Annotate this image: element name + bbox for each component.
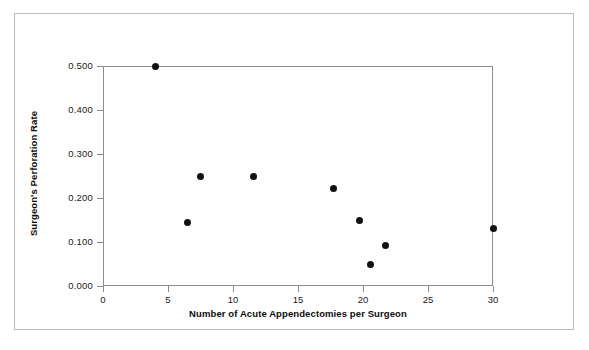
data-point <box>250 173 257 180</box>
data-point <box>197 173 204 180</box>
y-axis-tick-label-text: 0.100 <box>51 236 93 247</box>
plot-area <box>103 66 493 286</box>
x-axis-tick-label: 15 <box>283 294 313 305</box>
x-axis-tick-label: 5 <box>153 294 183 305</box>
y-axis-tick-label-text: 0.500 <box>51 60 93 71</box>
y-axis-tick-label: 0.100 <box>48 236 93 248</box>
y-axis-tick <box>97 110 103 111</box>
x-axis-tick <box>493 286 494 292</box>
y-axis-tick-label: 0.200 <box>48 192 93 204</box>
x-axis-tick-label: 25 <box>413 294 443 305</box>
x-axis-tick-label: 10 <box>218 294 248 305</box>
scatter-chart: 0.0000.1000.2000.3000.4000.500 051015202… <box>0 0 589 350</box>
x-axis-tick-label: 0 <box>88 294 118 305</box>
y-axis-tick-label-text: 0.200 <box>51 192 93 203</box>
data-point <box>490 225 497 232</box>
x-axis-title: Number of Acute Appendectomies per Surge… <box>103 308 493 319</box>
scanned-page: 0.0000.1000.2000.3000.4000.500 051015202… <box>0 0 589 350</box>
x-axis-tick <box>428 286 429 292</box>
y-axis-tick <box>97 242 103 243</box>
x-axis-tick <box>298 286 299 292</box>
y-axis-tick-label: 0.500 <box>48 60 93 72</box>
y-axis-tick-label: 0.000 <box>48 280 93 292</box>
y-axis-tick <box>97 66 103 67</box>
data-point <box>152 63 159 70</box>
y-axis-tick-label: 0.400 <box>48 104 93 116</box>
data-point <box>184 219 191 226</box>
x-axis-tick <box>103 286 104 292</box>
y-axis-tick-label-text: 0.400 <box>51 104 93 115</box>
y-axis-tick-label: 0.300 <box>48 148 93 160</box>
y-axis-tick <box>97 198 103 199</box>
x-axis-tick-label: 20 <box>348 294 378 305</box>
data-point <box>356 217 363 224</box>
x-axis-tick <box>363 286 364 292</box>
y-axis-tick-label-text: 0.000 <box>51 280 93 291</box>
x-axis-tick <box>233 286 234 292</box>
y-axis-tick <box>97 154 103 155</box>
data-point <box>382 242 389 249</box>
data-point <box>330 185 337 192</box>
y-axis-tick-label-text: 0.300 <box>51 148 93 159</box>
x-axis-tick <box>168 286 169 292</box>
x-axis-tick-label: 30 <box>478 294 508 305</box>
y-axis-title: Surgeon's Perforation Rate <box>28 79 39 269</box>
